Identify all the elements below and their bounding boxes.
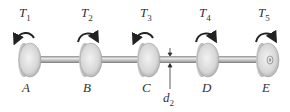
dimension-label-d2: d2 — [163, 91, 174, 108]
torque-arrow-cw-b — [78, 33, 96, 42]
disk-d — [196, 43, 219, 77]
torque-label-t5: T5 — [258, 6, 270, 23]
point-label-e: E — [262, 81, 270, 94]
disk-a — [18, 43, 41, 77]
torque-arrow-ccw-a — [16, 33, 34, 40]
torque-label-t2: T2 — [81, 6, 93, 23]
torque-arrow-cw-e — [256, 33, 274, 42]
point-label-d: D — [202, 81, 211, 94]
torque-arrow-ccw-c — [135, 33, 153, 40]
torque-label-t1: T1 — [19, 6, 31, 23]
point-label-c: C — [142, 81, 151, 94]
shaft-diagram: T1 T2 T3 T4 T5 A B C D E d2 — [0, 0, 290, 112]
torque-label-t4: T4 — [199, 6, 211, 23]
torque-arrow-cw-d — [196, 33, 214, 42]
disk-c — [137, 43, 160, 77]
disk-e — [256, 43, 279, 77]
torque-label-t3: T3 — [140, 6, 152, 23]
point-label-a: A — [22, 81, 30, 94]
dimension-d2 — [168, 48, 172, 89]
disk-b — [79, 43, 102, 77]
point-label-b: B — [83, 81, 91, 94]
